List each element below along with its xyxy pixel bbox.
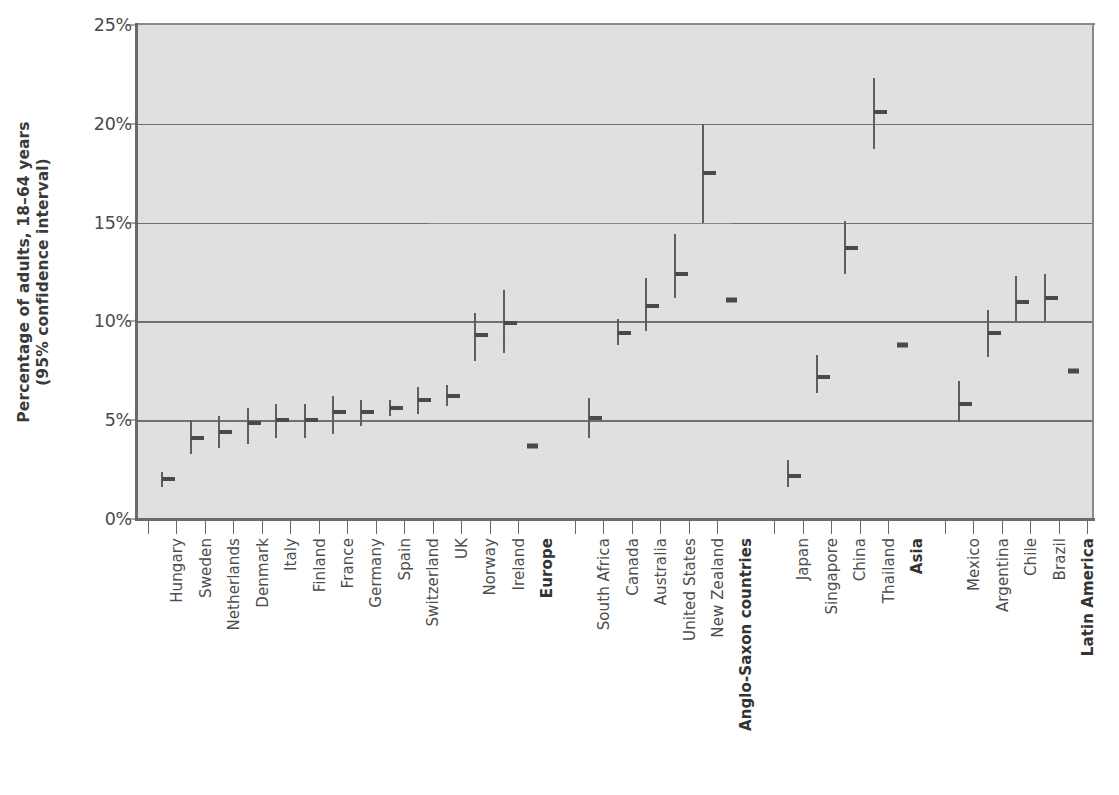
aggregate-marker [726, 297, 737, 302]
data-point-marker [162, 477, 175, 481]
x-tick-label: Singapore [823, 538, 841, 615]
y-tick-mark [126, 222, 137, 223]
data-point-marker [788, 474, 801, 478]
bleed-line: ———————————————— [428, 369, 732, 391]
x-axis-line [135, 518, 1095, 521]
data-point-marker [276, 418, 289, 422]
x-tick-mark [1059, 521, 1060, 534]
x-tick-label: Asia [908, 538, 926, 574]
y-tick-label: 20% [70, 114, 132, 134]
data-point-marker [447, 394, 460, 398]
y-axis-title-line2: (95% confidence interval) [34, 121, 53, 422]
data-point-marker [589, 416, 602, 420]
data-point-marker [1045, 296, 1058, 300]
x-tick-label: UK [453, 538, 471, 559]
x-tick-mark [973, 521, 974, 534]
error-bar [247, 408, 249, 444]
x-tick-mark [660, 521, 661, 534]
x-tick-mark [1030, 521, 1031, 534]
data-point-marker [1016, 300, 1029, 304]
y-tick-label: 0% [70, 509, 132, 529]
aggregate-marker [897, 343, 908, 348]
x-tick-label: Argentina [994, 538, 1012, 612]
x-tick-label: Australia [652, 538, 670, 605]
data-point-marker [988, 331, 1001, 335]
x-tick-label: Sweden [197, 538, 215, 598]
x-tick-mark [575, 521, 576, 534]
chart-figure: Percentage of adults, 18–64 years (95% c… [0, 0, 1119, 795]
y-axis-ticks: 0%5%10%15%20%25% [62, 0, 132, 795]
x-tick-label: Canada [624, 538, 642, 596]
data-point-marker [305, 418, 318, 422]
data-point-marker [418, 398, 431, 402]
x-tick-label: Denmark [254, 538, 272, 608]
x-tick-mark [717, 521, 718, 534]
error-bar [674, 234, 676, 297]
x-tick-label: Chile [1022, 538, 1040, 576]
x-tick-mark [888, 521, 889, 534]
x-tick-mark [205, 521, 206, 534]
data-point-marker [361, 410, 374, 414]
plot-border-left [135, 23, 138, 521]
bleed-line: ———————————————— [418, 77, 722, 99]
x-tick-mark [518, 521, 519, 534]
x-tick-label: Italy [282, 538, 300, 571]
y-tick-mark [126, 25, 137, 26]
bleed-line: ———————————————— [438, 189, 742, 211]
x-tick-mark [233, 521, 234, 534]
x-tick-mark [148, 521, 149, 534]
x-tick-label: South Africa [595, 538, 613, 630]
x-tick-label: Ireland [510, 538, 528, 591]
y-tick-label: 25% [70, 15, 132, 35]
data-point-marker [817, 375, 830, 379]
x-tick-label: China [851, 538, 869, 581]
plot-border-top [136, 23, 1095, 25]
bleed-line: ———————————————— [438, 347, 742, 369]
data-point-marker [475, 333, 488, 337]
x-tick-mark [803, 521, 804, 534]
y-tick-label: 5% [70, 410, 132, 430]
x-tick-label: Finland [311, 538, 329, 592]
x-tick-label: Anglo-Saxon countries [737, 538, 755, 731]
data-point-marker [504, 321, 517, 325]
aggregate-marker [527, 443, 538, 448]
x-tick-label: United States [681, 538, 699, 641]
x-tick-label: Brazil [1051, 538, 1069, 580]
gridline [138, 223, 1093, 225]
data-point-marker [703, 171, 716, 175]
data-point-marker [390, 406, 403, 410]
x-tick-mark [176, 521, 177, 534]
data-point-marker [874, 110, 887, 114]
y-tick-mark [126, 519, 137, 520]
bleed-line: ———————————————— [448, 99, 752, 121]
x-tick-label: France [339, 538, 357, 588]
y-tick-mark [126, 420, 137, 421]
y-axis-title: Percentage of adults, 18–64 years (95% c… [6, 25, 62, 519]
x-tick-mark [774, 521, 775, 534]
x-tick-mark [603, 521, 604, 534]
x-tick-label: Europe [538, 538, 556, 598]
data-point-marker [248, 421, 261, 425]
x-tick-label: Spain [396, 538, 414, 580]
x-tick-mark [1002, 521, 1003, 534]
bleed-line: ———————————————— [438, 167, 742, 189]
data-point-marker [219, 430, 232, 434]
x-tick-label: Hungary [168, 538, 186, 603]
x-tick-label: Switzerland [424, 538, 442, 627]
x-tick-mark [632, 521, 633, 534]
x-tick-label: Netherlands [225, 538, 243, 631]
x-tick-mark [461, 521, 462, 534]
x-tick-mark [262, 521, 263, 534]
data-point-marker [959, 402, 972, 406]
x-tick-mark [831, 521, 832, 534]
x-tick-mark [860, 521, 861, 534]
bleed-line: ———————————————— [428, 145, 732, 167]
gridline [138, 124, 1093, 126]
x-tick-label: Latin America [1079, 538, 1097, 656]
x-tick-label: Japan [794, 538, 812, 580]
x-tick-mark [945, 521, 946, 534]
x-tick-label: Norway [481, 538, 499, 596]
x-tick-mark [433, 521, 434, 534]
data-point-marker [333, 410, 346, 414]
y-tick-label: 10% [70, 311, 132, 331]
